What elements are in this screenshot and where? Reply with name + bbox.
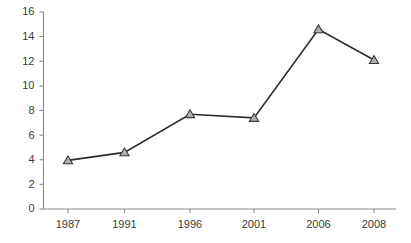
x-tick-label: 1987 (56, 218, 80, 230)
y-tick-label: 8 (28, 104, 34, 116)
chart-background (0, 0, 411, 243)
x-tick-label: 2001 (242, 218, 266, 230)
y-tick-label: 10 (22, 79, 34, 91)
chart-canvas: 0246810121416 198719911996200120062008 (0, 0, 411, 243)
x-tick-label: 1991 (112, 218, 136, 230)
x-tick-label: 1996 (178, 218, 202, 230)
y-tick-label: 14 (22, 30, 34, 42)
line-chart: 0246810121416 198719911996200120062008 (0, 0, 411, 243)
y-tick-label: 0 (28, 202, 34, 214)
y-tick-label: 16 (22, 5, 34, 17)
y-tick-label: 4 (28, 153, 34, 165)
x-tick-label: 2008 (362, 218, 386, 230)
y-tick-label: 2 (28, 178, 34, 190)
x-tick-label: 2006 (306, 218, 330, 230)
y-tick-label: 12 (22, 55, 34, 67)
y-tick-label: 6 (28, 129, 34, 141)
